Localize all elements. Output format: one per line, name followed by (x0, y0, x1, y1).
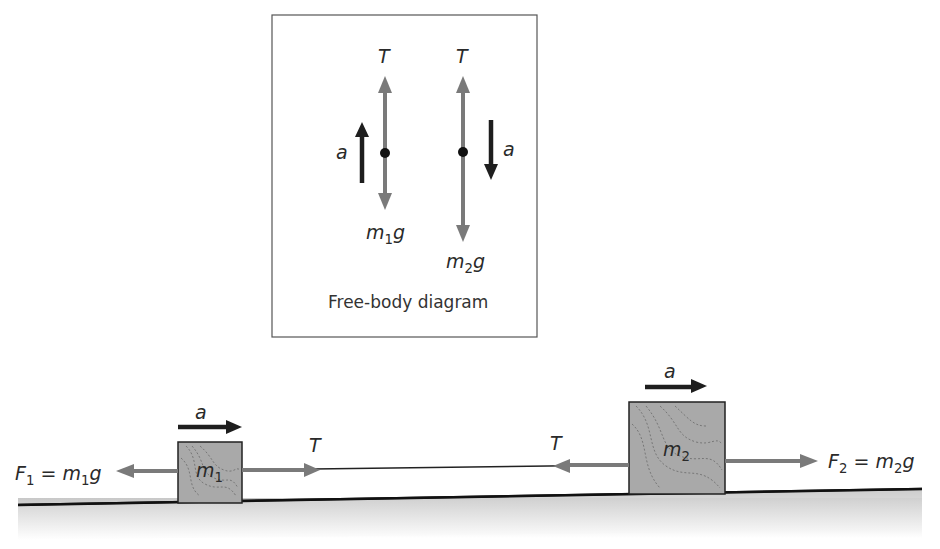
fbd-frame (272, 15, 537, 337)
block2-accel-arrow-icon (645, 379, 707, 393)
physics-diagram: T T a a m1g m2g Free-body diagram a a m1… (0, 0, 940, 549)
fbd-mass2-tension-label: T (456, 47, 468, 66)
fbd-mass2-weight-label: m2g (446, 252, 485, 275)
f1-force-label: F1 = m1g (15, 464, 101, 487)
f1-force-arrow-icon (116, 464, 178, 478)
fbd-mass1-weight-label: m1g (366, 223, 405, 246)
fbd-mass1-accel-label: a (336, 143, 348, 162)
fbd-caption: Free-body diagram (328, 294, 488, 311)
f2-m-var: m (875, 450, 894, 472)
f1-var: F (15, 462, 26, 484)
block2-mass-var: m (663, 438, 682, 460)
block2-tension-label: T (550, 434, 562, 453)
block1-mass-var: m (196, 459, 215, 481)
weight-mass-sub: 1 (385, 232, 393, 247)
weight-g: g (393, 221, 405, 243)
mass1-point-icon (380, 148, 390, 158)
f2-force-arrow-icon (725, 454, 818, 468)
mass2-point-icon (458, 147, 468, 157)
f2-var: F (828, 450, 839, 472)
t1-tension-arrow-icon (242, 463, 320, 477)
t2-tension-arrow-icon (553, 459, 629, 473)
block1-mass-label: m1 (196, 461, 223, 484)
f1-g: g (89, 462, 101, 484)
block1-mass-sub: 1 (215, 470, 223, 485)
block1-accel-label: a (195, 403, 207, 422)
f2-eq: = (847, 450, 875, 472)
f1-m-var: m (62, 462, 81, 484)
f1-eq: = (34, 462, 62, 484)
weight-mass-var: m (366, 221, 385, 243)
block2-mass-sub: 2 (682, 449, 690, 464)
f2-g: g (902, 450, 914, 472)
block1-accel-arrow-icon (178, 420, 242, 434)
weight-mass-var: m (446, 250, 465, 272)
block2-accel-label: a (664, 362, 676, 381)
weight-g: g (473, 250, 485, 272)
fbd-mass1-tension-label: T (378, 47, 390, 66)
weight-mass-sub: 2 (465, 261, 473, 276)
fbd-mass2-accel-label: a (503, 140, 515, 159)
block1-tension-label: T (309, 436, 321, 455)
f2-force-label: F2 = m2g (828, 452, 914, 475)
block2-mass-label: m2 (663, 440, 690, 463)
